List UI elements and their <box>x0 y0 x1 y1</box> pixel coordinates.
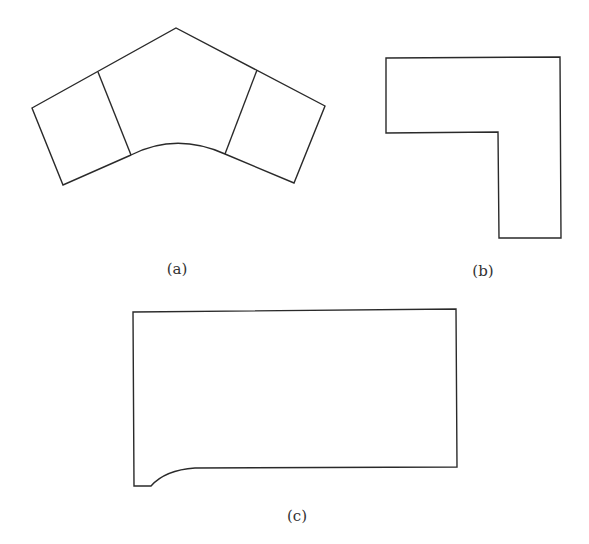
panel-b-caption: (b) <box>472 262 493 280</box>
panel-c-outline <box>133 309 457 486</box>
diagram-canvas <box>0 0 589 544</box>
panel-a <box>32 28 325 185</box>
panel-c-caption: (c) <box>287 507 307 525</box>
panel-b <box>386 57 561 238</box>
panel-a-outline <box>32 28 325 185</box>
panel-b-outline <box>386 57 561 238</box>
panel-c <box>133 309 457 486</box>
panel-a-caption: (a) <box>167 260 188 278</box>
